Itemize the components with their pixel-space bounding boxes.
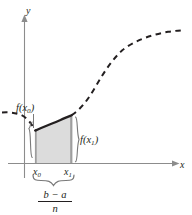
- f-x0-label: f(x0): [16, 103, 34, 115]
- f-x1-brace: [76, 117, 80, 162]
- x1-tick-label: x1: [64, 167, 72, 179]
- f-x0-brace: [29, 122, 32, 158]
- function-curve-right: [72, 30, 184, 115]
- x0-tick-label: x0: [33, 167, 41, 179]
- y-axis: [21, 15, 27, 179]
- trapezoid-rule-figure: y x f(x0) f(x1) x0 x1 b − a n: [0, 0, 192, 215]
- y-axis-label: y: [26, 6, 30, 16]
- f-x1-close: ): [95, 134, 99, 145]
- fraction-bar: [38, 201, 72, 202]
- f-x0-close: ): [31, 102, 35, 113]
- width-denominator: n: [32, 203, 78, 214]
- width-numerator: b − a: [32, 189, 78, 200]
- x-axis-label: x: [180, 160, 184, 170]
- x0-sub: 0: [37, 171, 40, 178]
- f-x1-label: f(x1): [80, 135, 98, 147]
- width-fraction-label: b − a n: [32, 189, 78, 215]
- x1-sub: 1: [68, 171, 71, 178]
